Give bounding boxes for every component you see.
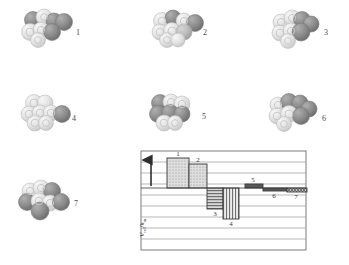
bar-label-1: 1	[176, 150, 180, 158]
cluster-label-2: 2	[203, 29, 207, 37]
y-axis-label-text: Vrel/km	[138, 218, 146, 237]
y-axis-label: Vrel/km	[138, 218, 147, 237]
atom-sphere-group	[272, 10, 319, 49]
bar-3	[207, 188, 223, 209]
cluster-label-5: 5	[202, 113, 206, 121]
cluster-structure-1	[18, 8, 82, 54]
cluster-label-1: 1	[76, 29, 80, 37]
bar-label-6: 6	[272, 192, 276, 200]
bar-label-7: 7	[294, 193, 298, 201]
cluster-structure-7	[16, 178, 78, 224]
atom-sphere-group	[22, 9, 73, 48]
cluster-structure-5	[146, 92, 206, 136]
atom-sphere-group	[150, 94, 191, 131]
cluster-label-4: 4	[72, 115, 76, 123]
bar-6	[263, 188, 287, 191]
cluster-structure-6	[265, 92, 325, 136]
cluster-label-7: 7	[74, 200, 78, 208]
bar-7	[287, 188, 307, 192]
bar-label-4: 4	[229, 220, 233, 228]
atom-sphere-group	[152, 10, 204, 48]
bar-label-2: 2	[196, 156, 200, 164]
binding-energy-bar-chart: 1 2 3 4 5 6 7 Vrel/km	[130, 145, 315, 257]
figure-canvas: 1 2	[0, 0, 349, 265]
bar-1	[167, 158, 189, 188]
atom-sphere-group	[19, 180, 70, 220]
atom-sphere-group	[21, 95, 71, 132]
bar-label-5: 5	[251, 176, 255, 184]
atom-sphere-group	[269, 94, 317, 132]
bar-5	[245, 184, 263, 188]
cluster-structure-3	[268, 8, 328, 54]
bar-2	[189, 164, 207, 188]
bar-4	[223, 188, 239, 219]
cluster-label-3: 3	[324, 29, 328, 37]
cluster-structure-4	[18, 92, 78, 136]
cluster-label-6: 6	[322, 115, 326, 123]
bar-label-3: 3	[213, 210, 217, 218]
